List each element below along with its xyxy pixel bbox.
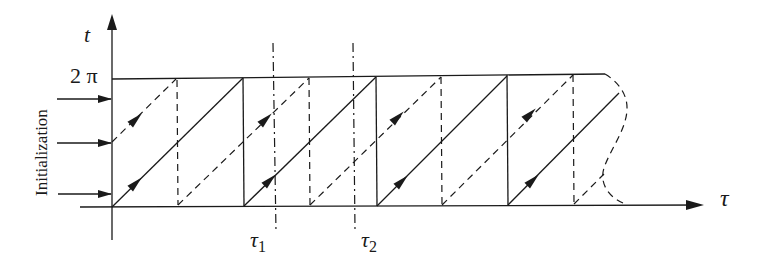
two-pi-line xyxy=(112,74,605,79)
tau1-label: τ1 xyxy=(250,227,266,255)
dashed-phase-line xyxy=(574,174,604,204)
t-axis-arrowhead xyxy=(107,14,117,30)
tau-axis-arrowhead xyxy=(686,200,704,210)
wavy-end-boundary xyxy=(603,74,627,203)
phase-line xyxy=(508,93,619,205)
tau2-marker-line xyxy=(353,43,355,230)
cell-boundary xyxy=(376,77,377,206)
dashed-boundary xyxy=(441,77,442,205)
tau-axis xyxy=(80,205,700,207)
direction-arrow-icon xyxy=(521,106,538,123)
tau-axis-label: τ xyxy=(720,185,730,211)
dashed-phase-line xyxy=(112,79,176,142)
cell-boundary xyxy=(507,75,508,205)
dashed-boundary xyxy=(309,78,310,205)
direction-arrow-icon xyxy=(389,109,406,126)
dashed-boundary xyxy=(573,75,574,204)
tau1-marker-line xyxy=(273,43,276,232)
side-label-initialization: Initialization xyxy=(32,109,51,196)
dashed-boundary xyxy=(177,80,178,205)
two-pi-label: 2 π xyxy=(70,63,98,88)
timing-diagram: t 2 π τ Initialization τ1 τ2 xyxy=(0,0,763,262)
t-axis-label: t xyxy=(84,22,91,47)
tau2-label: τ2 xyxy=(361,227,377,255)
